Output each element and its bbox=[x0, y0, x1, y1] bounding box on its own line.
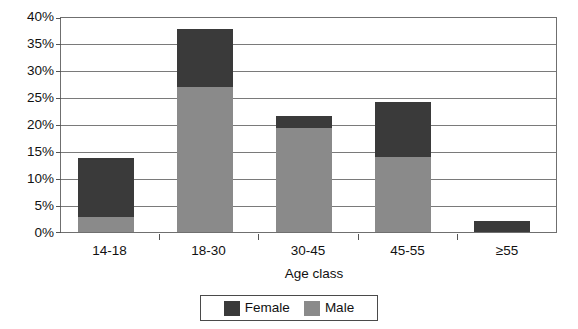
y-tick-label-10: 10% bbox=[0, 172, 54, 186]
y-tick-label-25: 25% bbox=[0, 91, 54, 105]
bar-stack-45-55[interactable] bbox=[375, 102, 431, 232]
bar-segment-male-30-45[interactable] bbox=[276, 128, 332, 232]
y-tick-label-30: 30% bbox=[0, 64, 54, 78]
legend: Female Male bbox=[200, 295, 378, 321]
x-axis-title-text: Age class bbox=[285, 266, 344, 281]
y-tick-label-5: 5% bbox=[0, 199, 54, 213]
bar-segment-male-18-30[interactable] bbox=[177, 87, 233, 232]
legend-label-female: Female bbox=[245, 301, 290, 315]
gridline-35 bbox=[61, 44, 556, 45]
y-tick-mark-0 bbox=[56, 232, 61, 233]
y-tick-mark-25 bbox=[56, 98, 61, 99]
y-tick-label-15: 15% bbox=[0, 145, 54, 159]
x-tick-label-14-18: 14-18 bbox=[60, 243, 159, 258]
legend-label-male: Male bbox=[325, 301, 354, 315]
bar-segment-female-18-30[interactable] bbox=[177, 29, 233, 87]
plot-area bbox=[60, 17, 557, 233]
y-tick-label-35: 35% bbox=[0, 37, 54, 51]
x-tick-label-30-45: 30-45 bbox=[258, 243, 358, 258]
y-tick-mark-35 bbox=[56, 44, 61, 45]
y-tick-mark-30 bbox=[56, 71, 61, 72]
gridline-30 bbox=[61, 71, 556, 72]
x-tick-mark-4 bbox=[457, 234, 458, 240]
y-tick-mark-40 bbox=[56, 18, 61, 19]
y-tick-label-20: 20% bbox=[0, 118, 54, 132]
x-tick-label-18-30: 18-30 bbox=[159, 243, 258, 258]
bar-stack-18-30[interactable] bbox=[177, 29, 233, 232]
y-tick-mark-20 bbox=[56, 125, 61, 126]
y-tick-label-0: 0% bbox=[0, 226, 54, 240]
x-tick-mark-3 bbox=[358, 234, 359, 240]
y-tick-mark-15 bbox=[56, 152, 61, 153]
bar-segment-male-45-55[interactable] bbox=[375, 157, 431, 232]
bar-stack-55plus[interactable] bbox=[474, 221, 530, 232]
bar-segment-female-45-55[interactable] bbox=[375, 102, 431, 157]
stacked-bar-chart: 40% 35% 30% 25% 20% 15% 10% 5% 0% bbox=[0, 0, 578, 329]
y-tick-mark-10 bbox=[56, 179, 61, 180]
bar-segment-female-55plus[interactable] bbox=[474, 221, 530, 232]
x-axis-title: Age class bbox=[0, 266, 578, 281]
legend-item-female[interactable]: Female bbox=[224, 301, 290, 316]
bar-segment-female-30-45[interactable] bbox=[276, 116, 332, 128]
y-tick-mark-5 bbox=[56, 206, 61, 207]
y-tick-label-40: 40% bbox=[0, 10, 54, 24]
x-tick-label-55plus: ≥55 bbox=[457, 243, 557, 258]
bar-stack-30-45[interactable] bbox=[276, 116, 332, 232]
x-tick-mark-2 bbox=[258, 234, 259, 240]
legend-item-male[interactable]: Male bbox=[304, 301, 354, 316]
legend-swatch-female-icon bbox=[224, 301, 240, 316]
bar-segment-female-14-18[interactable] bbox=[78, 158, 134, 217]
x-tick-mark-1 bbox=[159, 234, 160, 240]
x-tick-label-45-55: 45-55 bbox=[358, 243, 457, 258]
gridline-25 bbox=[61, 98, 556, 99]
bar-stack-14-18[interactable] bbox=[78, 158, 134, 232]
bar-segment-male-14-18[interactable] bbox=[78, 217, 134, 232]
legend-swatch-male-icon bbox=[304, 301, 320, 316]
